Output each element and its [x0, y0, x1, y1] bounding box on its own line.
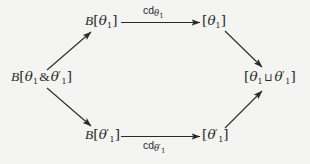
node-theta1: [θ1] [202, 14, 226, 28]
node-theta1-join-theta1prime: [θ1⊔θ′1] [244, 70, 296, 84]
node-b-theta1-and-theta1prime: B[θ1&θ′1] [11, 70, 72, 84]
node-b-theta1prime: B[θ′1] [85, 128, 120, 142]
commutative-diagram: B[θ1] [θ1] B[θ1&θ′1] [θ1⊔θ′1] B[θ′1] [θ′… [0, 0, 310, 164]
edge-left-to-bottom-left [47, 88, 91, 126]
node-theta1prime: [θ′1] [202, 128, 229, 142]
edge-label-cd-theta1: cdθ1 [143, 5, 164, 16]
node-b-theta1: B[θ1] [85, 14, 118, 28]
edge-label-cd-theta1prime: cdθ′1 [143, 140, 166, 151]
edge-top-right-to-right [225, 31, 262, 67]
edge-bottom-right-to-right [225, 91, 262, 128]
edge-left-to-top-left [47, 32, 91, 70]
